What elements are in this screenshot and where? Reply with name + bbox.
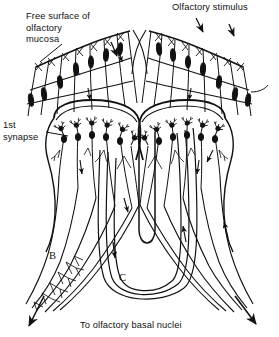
leader-first-synapse (46, 132, 68, 136)
olfactory-bulb-left (46, 100, 143, 252)
stimulus-arrow-3 (111, 42, 117, 56)
lateral-olfactory-tract-right (140, 176, 256, 324)
label-region-b: B (49, 250, 56, 261)
olfactory-bulb-right (136, 100, 233, 252)
leader-free-surface (40, 44, 62, 62)
olfactory-mucosa-right (132, 30, 268, 116)
stimulus-arrow-1 (196, 18, 203, 32)
label-to-olfactory-basal-nuclei: To olfactory basal nuclei (80, 320, 182, 332)
label-region-c: C (119, 272, 126, 283)
tract-arrow-left (29, 296, 44, 326)
label-olfactory-stimulus: Olfactory stimulus (172, 2, 248, 14)
figure-root: Free surface of olfactory mucosa Olfacto… (0, 0, 279, 337)
label-region-a: A (73, 66, 81, 77)
stimulus-arrow-2 (229, 24, 234, 36)
olfactory-pathway-illustration (0, 0, 279, 337)
label-free-surface-of-olfactory-mucosa: Free surface of olfactory mucosa (26, 11, 90, 46)
commissural-arrow-right (183, 226, 186, 242)
label-first-synapse: 1st synapse (3, 120, 38, 143)
midline-septum (139, 130, 155, 243)
commissural-bundle (98, 128, 197, 299)
lateral-olfactory-tract-left (26, 176, 139, 326)
tract-arrow-right (235, 296, 256, 324)
